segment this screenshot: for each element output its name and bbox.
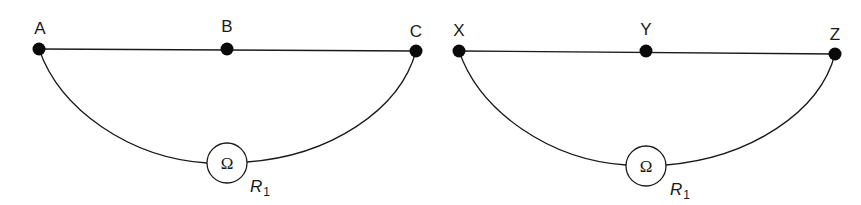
resistor-label-right: R1 [670,180,690,202]
label-y: Y [640,20,651,39]
ohmmeter-right: Ω [626,146,666,186]
circuit-diagram: A B C Ω R1 X Y Z Ω R1 [0,0,861,205]
node-b [221,43,234,56]
node-c [410,45,423,58]
label-x: X [453,21,464,40]
label-z: Z [830,25,840,44]
arc-wire-left-a [39,49,207,163]
node-y [640,45,653,58]
node-a [33,43,46,56]
label-b: B [221,17,232,36]
node-x [453,45,466,58]
ohmmeter-left: Ω [207,143,247,183]
resistor-label-sub: 1 [263,185,270,199]
circuit-xyz: X Y Z Ω R1 [453,20,842,202]
label-a: A [34,19,46,38]
arc-wire-right-x [459,51,626,165]
node-z [829,48,842,61]
circuit-abc: A B C Ω R1 [33,17,423,199]
resistor-label-left: R1 [250,177,270,199]
omega-icon: Ω [640,157,653,176]
resistor-label-sub: 1 [683,188,690,202]
label-c: C [410,22,422,41]
resistor-label-main: R [250,177,262,196]
arc-wire-right-z [666,54,835,165]
omega-icon: Ω [221,154,234,173]
arc-wire-left-c [247,51,416,162]
resistor-label-main: R [670,180,682,199]
